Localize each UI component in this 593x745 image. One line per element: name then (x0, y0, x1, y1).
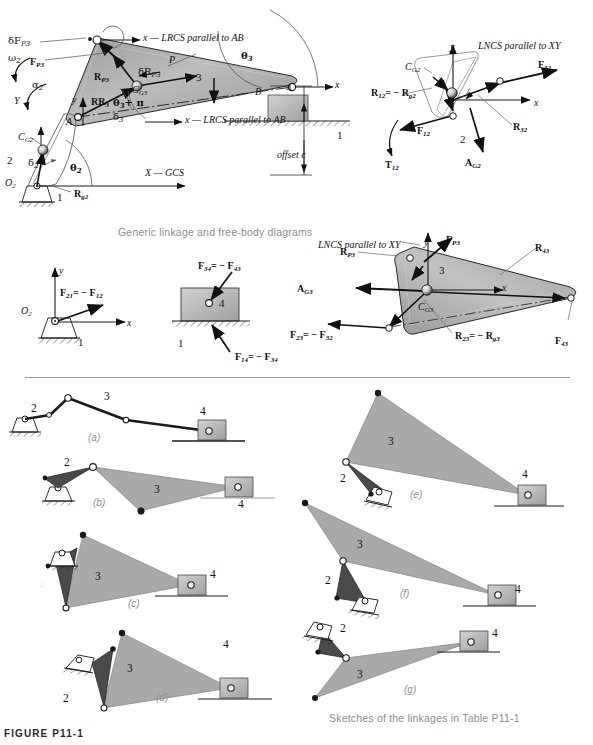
fbd3-label-CG3: CG3 (418, 302, 433, 314)
label-omega2: ω2 (8, 53, 21, 65)
label-alpha2: α2 (32, 80, 43, 92)
label-point-A: A (66, 117, 72, 127)
sketch-f-link4 (488, 585, 516, 605)
sketch-c-joint-bottom (63, 605, 69, 611)
sketch-a-part-label: (a) (88, 432, 100, 443)
fbd3-leader-lncs (402, 242, 420, 245)
label-RR3: RR3 (91, 97, 109, 109)
label-point-B: B (255, 87, 261, 97)
label-y-local-main: y (72, 95, 76, 105)
caption-top: Generic linkage and free-body diagrams (118, 226, 312, 238)
sketch-f-link3 (305, 503, 497, 595)
fbd1-label-O2: O2 (21, 306, 32, 318)
fbd3-label-link-3: 3 (439, 265, 445, 276)
sketch-f (302, 500, 536, 620)
fbd2-vector-AG2 (470, 108, 483, 152)
sketch-g-part-label: (g) (404, 684, 416, 695)
sketch-f-joint-A (340, 558, 346, 564)
fbd2-label-F12: F12 (417, 126, 430, 138)
fbd3-leader-F43 (568, 302, 572, 320)
sketch-g-label-4: 4 (492, 627, 498, 639)
sketch-b-part-label: (b) (93, 497, 105, 508)
sketch-c-label-2: 2 (39, 578, 45, 590)
sketch-b-label-2: 2 (64, 456, 70, 468)
sketch-b-link3 (93, 467, 237, 511)
sketch-f-link2 (336, 561, 367, 603)
sketch-e-label-4: 4 (522, 468, 528, 480)
link-2-outline-fbd (415, 52, 479, 118)
fbd2-label-link-2: 2 (460, 134, 466, 145)
sketch-e-label-2: 2 (340, 472, 346, 484)
label-Y-global: Y (14, 96, 20, 106)
sketch-f-label-2: 2 (325, 574, 331, 586)
label-point-P: P (169, 55, 175, 65)
fbd3-label-R43: R43 (535, 243, 549, 255)
sketch-c-joint-B (188, 582, 194, 588)
sketch-c-joint-top (80, 532, 86, 538)
fbd4-vector-F14 (212, 325, 230, 352)
fbd3-label-AG3: AG3 (297, 284, 313, 296)
sketch-d-joint-B (228, 685, 234, 691)
sketch-b-label-3: 3 (154, 483, 160, 495)
fbd3-leader-RP3 (358, 252, 398, 256)
sketch-f-label-3: 3 (357, 538, 363, 550)
fbd1-vector-F21 (55, 305, 103, 322)
sketch-d-joint-top (119, 630, 125, 636)
sketch-e-joint-A (343, 459, 349, 465)
sketch-a-label-4: 4 (200, 405, 206, 417)
fbd2-label-T12: T12 (385, 160, 399, 172)
fbd2-label-CG2: CG2 (405, 62, 420, 74)
sketch-e (343, 390, 564, 511)
sketch-f-joint-B (495, 592, 501, 598)
label-link-1-a: 1 (57, 192, 63, 203)
label-CG2-main: CG2 (18, 132, 33, 144)
figure-id-label: FIGURE P11-1 (4, 728, 84, 739)
fbd3-joint-right (568, 295, 575, 302)
sketch-a-label-2: 2 (31, 402, 37, 414)
leader-deltaFP3 (40, 38, 86, 42)
fbd3-label-x: x (502, 283, 506, 293)
sketch-e-part-label: (e) (410, 489, 422, 500)
sketch-d-joint-bottom (101, 705, 107, 711)
fbd3-cg-marker (422, 285, 432, 295)
sketch-b-label-4: 4 (238, 498, 244, 510)
fbd3-joint-top (407, 255, 414, 262)
fbd1-label-link-1: 1 (78, 337, 84, 348)
label-link-4-main: 4 (286, 82, 292, 93)
label-delta2: δ2 (28, 158, 39, 170)
free-body-diagram-ground-link (38, 268, 125, 344)
sketch-b-joint-B (235, 484, 241, 490)
label-lrcs-x-top: x — LRCS parallel to AB (143, 33, 244, 43)
sketch-d-label-4: 4 (223, 638, 229, 650)
fbd2-label-x: x (534, 98, 538, 108)
fbd3-leader-R43 (500, 248, 536, 275)
fbd2-label-R32: R32 (513, 122, 527, 134)
sketch-e-joint-B (525, 492, 531, 498)
label-link-1-b: 1 (337, 130, 343, 141)
fbd3-label-lncs: LNCS parallel to XY (318, 240, 401, 250)
label-x-at-b: x (335, 80, 339, 90)
fbd2-label-AG2: AG2 (465, 158, 481, 170)
sketch-d-label-3: 3 (127, 662, 133, 674)
figure-artwork (0, 0, 593, 745)
sketch-g-label-3: 3 (357, 668, 363, 680)
sketch-a-joint-A (65, 395, 71, 401)
fbd4-label-link-1: 1 (178, 338, 184, 349)
fbd2-joint-lower (450, 113, 457, 120)
sketch-c-label-3: 3 (95, 570, 101, 582)
fbd2-label-R12: R12= − Rg2 (371, 88, 416, 100)
sketch-a (9, 395, 245, 441)
label-offset-c: offset c (277, 150, 306, 160)
sketch-g-label-2: 2 (340, 622, 346, 634)
fbd3-joint-left (386, 325, 393, 332)
fbd3-label-RP3: RP3 (340, 247, 355, 259)
fbd4-label-F34: F34= − F43 (198, 261, 241, 273)
sketch-g (302, 622, 500, 701)
sketch-g-joint-bottom (312, 695, 318, 701)
label-theta3-pi: θ3+ π (113, 98, 144, 109)
point-P-dot (88, 37, 92, 41)
ground-pivot-O2-main (19, 183, 55, 207)
cg2-marker-main (38, 145, 48, 155)
label-F-P3: FP3 (30, 57, 44, 69)
sketch-c-part-label: (c) (128, 598, 140, 609)
